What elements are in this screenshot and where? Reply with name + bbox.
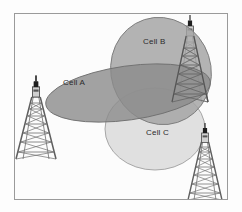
cell-b-label: Cell B bbox=[143, 38, 166, 46]
coverage-diagram-figure: Cell A Cell B Cell C bbox=[0, 0, 242, 212]
cell-a-label: Cell A bbox=[63, 79, 85, 87]
radio-tower-left-overlay bbox=[32, 76, 39, 98]
cell-c-label: Cell C bbox=[146, 129, 169, 137]
diagram-canvas bbox=[0, 0, 242, 212]
